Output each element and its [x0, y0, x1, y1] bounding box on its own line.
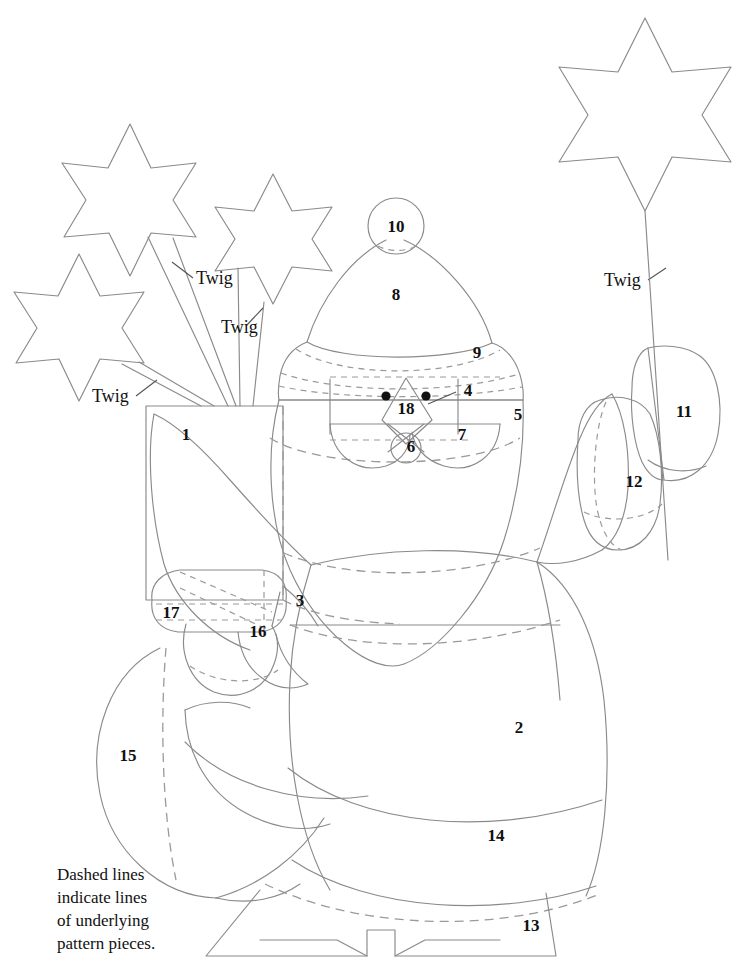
- piece-label-1: 1: [182, 425, 191, 444]
- eye-left: [381, 391, 390, 400]
- twig-stick-right: [645, 211, 668, 560]
- twig-label-right: Twig: [604, 270, 641, 290]
- eye-right: [421, 391, 430, 400]
- piece-15-sack: [97, 648, 368, 898]
- twig-label-mid-left: Twig: [221, 317, 258, 337]
- piece-label-18: 18: [398, 399, 415, 418]
- sack-underlay-dash: [163, 648, 176, 880]
- robe-seam-right: [537, 562, 560, 700]
- twig-label-upper-left: Twig: [196, 268, 233, 288]
- piece-label-12: 12: [626, 472, 643, 491]
- right-arm: [537, 394, 628, 564]
- piece-label-16: 16: [250, 622, 267, 641]
- caption-block: Dashed lines indicate lines of underlyin…: [57, 865, 155, 953]
- piece-2-robe-body: [289, 551, 607, 896]
- piece-label-4: 4: [464, 381, 473, 400]
- piece-label-9: 9: [473, 343, 482, 362]
- star-right: [559, 18, 731, 211]
- caption-line-2: of underlying: [57, 911, 150, 930]
- piece-4-leader: [428, 392, 456, 404]
- caption-line-0: Dashed lines: [57, 865, 144, 884]
- piece-label-6: 6: [407, 437, 416, 456]
- twig-label-group: Twig Twig Twig Twig: [92, 268, 641, 406]
- pattern-sheet: Dashed lines indicate lines of underlyin…: [0, 0, 744, 972]
- beard-dash-mid: [284, 548, 540, 573]
- piece-label-5: 5: [514, 405, 523, 424]
- piece-9-hat-brim: [278, 342, 523, 400]
- piece-label-2: 2: [515, 718, 524, 737]
- piece-16-mitten: [184, 592, 308, 695]
- twig-leader-right: [648, 268, 666, 280]
- piece-label-17: 17: [163, 603, 181, 622]
- piece-label-3: 3: [296, 591, 305, 610]
- twig-label-lower-left: Twig: [92, 386, 129, 406]
- piece-label-14: 14: [488, 826, 506, 845]
- piece-label-13: 13: [523, 916, 540, 935]
- piece-label-8: 8: [392, 285, 401, 304]
- piece-14-robe-hem: [288, 768, 602, 906]
- caption-line-1: indicate lines: [57, 888, 147, 907]
- pattern-artwork: Dashed lines indicate lines of underlyin…: [0, 0, 744, 972]
- star-top-left: [62, 124, 196, 276]
- piece-label-7: 7: [458, 425, 467, 444]
- piece-label-11: 11: [676, 402, 692, 421]
- piece-label-15: 15: [120, 746, 137, 765]
- piece-label-10: 10: [388, 217, 405, 236]
- twig-leader-lower-left: [136, 380, 157, 396]
- star-bottom-left: [14, 254, 144, 401]
- beard-dash-lower: [290, 620, 560, 644]
- caption-line-3: pattern pieces.: [57, 934, 155, 953]
